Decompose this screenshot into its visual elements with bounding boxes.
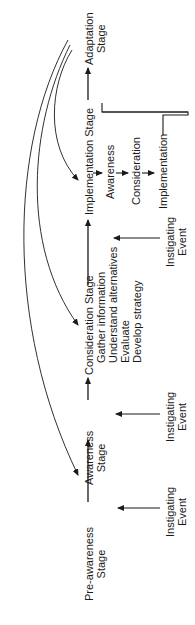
stage-label: Awareness: [83, 431, 95, 485]
consideration-detail: Understand alternatives: [107, 247, 119, 375]
stage-awareness: Awareness Stage: [83, 431, 107, 485]
event-label: Instigating: [164, 217, 176, 267]
consideration-detail: Evaluate: [119, 247, 131, 375]
loop-awareness: Awareness: [104, 145, 116, 199]
arc-to-implementation: [54, 50, 78, 180]
loop-consideration: Consideration: [130, 137, 142, 205]
stage-label: Pre-awareness: [83, 527, 95, 601]
arc-to-awareness: [24, 40, 78, 475]
event-label: Instigating: [164, 392, 176, 442]
event-label: Event: [176, 487, 188, 537]
stage-label: Stage: [95, 431, 107, 485]
consideration-detail: Develop strategy: [131, 247, 143, 375]
stage-label: Stage: [95, 527, 107, 601]
instigating-event-2: Instigating Event: [164, 392, 188, 442]
stage-consideration: Consideration Stage Gather information U…: [83, 247, 143, 375]
stage-model-diagram: Pre-awareness Stage Awareness Stage Cons…: [0, 0, 195, 625]
instigating-event-3: Instigating Event: [164, 217, 188, 267]
stage-label: Implementation Stage: [83, 108, 95, 215]
stage-adaptation: Adaptation Stage: [83, 12, 107, 65]
feedback-loop: [102, 112, 188, 135]
consideration-detail: Gather information: [95, 247, 107, 375]
stage-label: Consideration Stage: [83, 247, 95, 375]
stage-label: Adaptation: [83, 12, 95, 65]
stage-label: Stage: [95, 12, 107, 65]
event-label: Event: [176, 392, 188, 442]
instigating-event-1: Instigating Event: [164, 487, 188, 537]
event-label: Instigating: [164, 487, 176, 537]
stage-implementation: Implementation Stage: [83, 108, 95, 215]
loop-implementation: Implementation: [157, 134, 169, 209]
event-label: Event: [176, 217, 188, 267]
stage-pre-awareness: Pre-awareness Stage: [83, 527, 107, 601]
